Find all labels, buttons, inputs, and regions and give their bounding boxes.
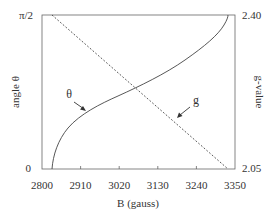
theta-annotation: θ [66,87,72,101]
g-line [52,15,228,169]
y-right-bottom-label: 2.05 [242,162,262,174]
x-ticks [81,166,197,169]
chart: 2800 2910 3020 3130 3240 3350 B (gauss) … [0,0,275,221]
y-right-top-label: 2.40 [242,9,262,21]
y-left-top-label: π/2 [19,9,33,21]
x-tick-label: 3020 [108,179,131,191]
g-arrow-shaft [180,107,190,115]
x-tick-label: 3240 [185,179,208,191]
x-axis-title: B (gauss) [117,197,159,210]
y-left-title: angle θ [9,76,21,108]
y-right-title: g-value [254,76,266,109]
g-annotation: g [193,93,199,107]
x-tick-label: 2910 [70,179,93,191]
x-tick-label: 2800 [31,179,54,191]
x-tick-label: 3130 [147,179,170,191]
x-tick-label: 3350 [224,179,247,191]
y-left-bottom-label: 0 [26,162,32,174]
